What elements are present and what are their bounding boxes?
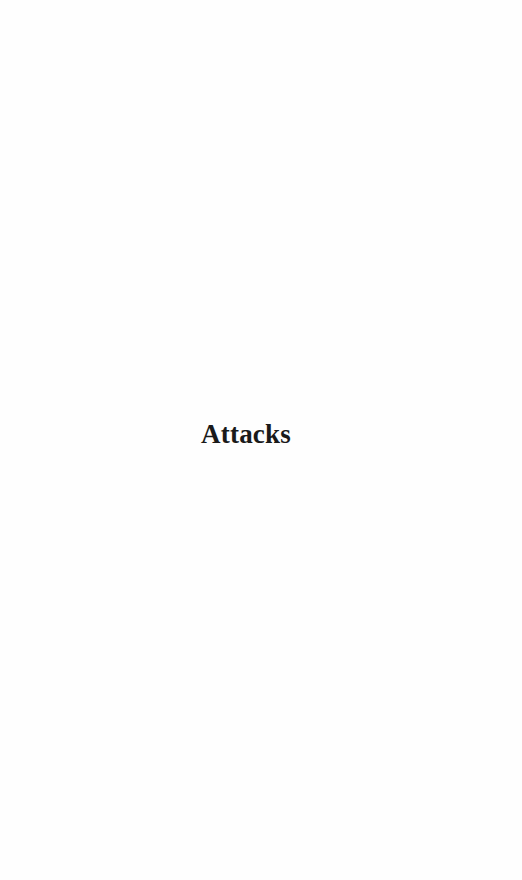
document-page: Attacks: [0, 0, 522, 880]
section-title: Attacks: [0, 418, 492, 450]
